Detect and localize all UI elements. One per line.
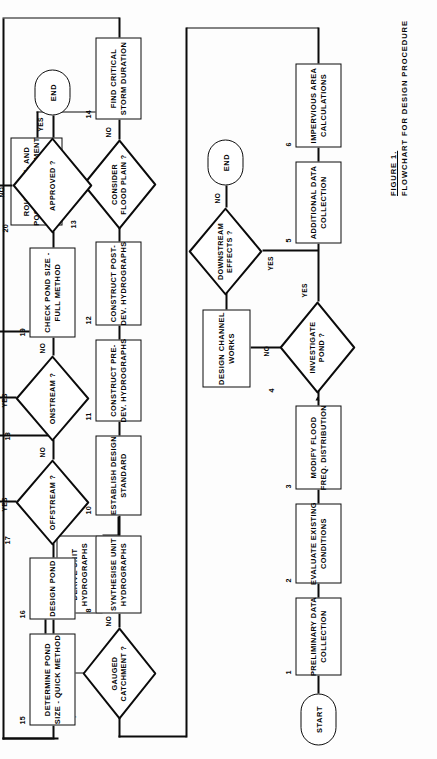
flowchart-canvas-row3	[0, 0, 437, 759]
figure-caption: FIGURE 1. FLOWCHART FOR DESIGN PROCEDURE	[388, 20, 410, 196]
figure-number: FIGURE 1.	[388, 20, 399, 196]
figure-page: START PRELIMINARY DATA COLLECTION 1 EVAL…	[0, 0, 437, 759]
figure-title: FLOWCHART FOR DESIGN PROCEDURE	[399, 20, 410, 196]
